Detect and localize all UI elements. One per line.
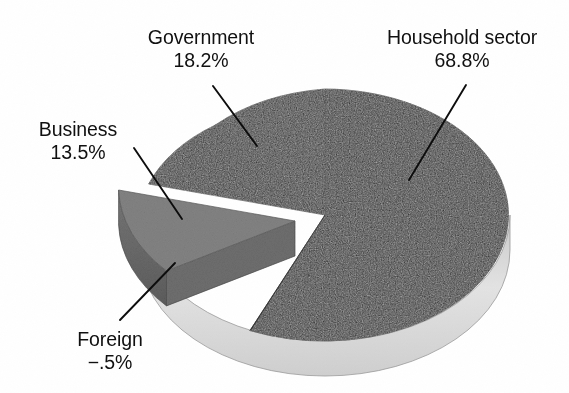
label-business-value: 13.5% <box>10 141 146 164</box>
label-foreign: Foreign −.5% <box>42 328 178 374</box>
label-foreign-value: −.5% <box>42 351 178 374</box>
label-household-sector-name: Household sector <box>364 26 560 49</box>
slice-business-group[interactable] <box>119 190 295 306</box>
label-business: Business 13.5% <box>10 118 146 164</box>
label-government-value: 18.2% <box>112 49 290 72</box>
pie-chart-figure: Household sector 68.8% Government 18.2% … <box>0 0 569 393</box>
label-household-sector: Household sector 68.8% <box>364 26 560 72</box>
label-government-name: Government <box>112 26 290 49</box>
label-household-sector-value: 68.8% <box>364 49 560 72</box>
label-foreign-name: Foreign <box>42 328 178 351</box>
label-government: Government 18.2% <box>112 26 290 72</box>
label-business-name: Business <box>10 118 146 141</box>
